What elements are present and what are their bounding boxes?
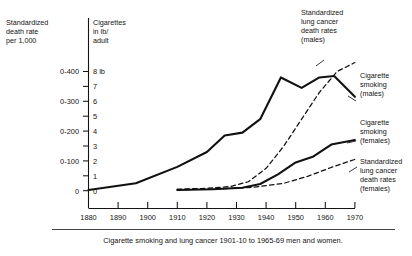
annotation-female-cancer-line-4: (females) xyxy=(360,184,390,193)
left-axis-tick-labels: 0-400 0-300 0-200 0-100 0 xyxy=(60,67,79,195)
leader-line-female-cancer xyxy=(349,167,357,172)
left-tick-label-0: 0 xyxy=(75,187,79,196)
x-tick-label-1930: 1930 xyxy=(228,213,244,222)
chart-caption: Cigarette smoking and lung cancer 1901-1… xyxy=(103,236,343,245)
right-tick-label-1: 1 xyxy=(93,172,97,181)
annotation-lung-cancer-females: Standardized lung cancer death rates (fe… xyxy=(360,157,402,193)
left-tick-label-300: 0-300 xyxy=(60,97,79,106)
x-tick-label-1940: 1940 xyxy=(258,213,274,222)
x-tick-label-1970: 1970 xyxy=(347,213,363,222)
annotation-cigarette-smoking-females: Cigarette smoking (females) xyxy=(360,118,390,145)
x-tick-label-1880: 1880 xyxy=(80,213,96,222)
annotation-male-cancer-line-4: (males) xyxy=(301,35,325,44)
right-axis-tick-labels: 8 lb 7 6 5 4 3 2 1 0 xyxy=(93,67,105,195)
leader-line-male-cancer xyxy=(316,60,324,66)
right-tick-label-2: 2 xyxy=(93,157,97,166)
right-tick-label-5: 5 xyxy=(93,112,97,121)
chart-figure: Standardized death rate per 1,000 Cigare… xyxy=(0,0,412,256)
x-tick-label-1900: 1900 xyxy=(139,213,155,222)
series-line-lung-cancer-males xyxy=(177,63,355,190)
x-axis-ticks xyxy=(89,202,355,208)
left-axis-header: Standardized death rate per 1,000 xyxy=(6,18,48,45)
x-tick-label-1920: 1920 xyxy=(199,213,215,222)
left-axis-header-line-2: death rate xyxy=(6,27,38,36)
right-axis-header-line-2: in lb/ xyxy=(93,27,108,36)
x-tick-label-1910: 1910 xyxy=(169,213,185,222)
annotation-female-smoking-line-3: (females) xyxy=(360,136,390,145)
annotation-female-cancer-line-3: death rates xyxy=(360,175,396,184)
series-line-cigarette-smoking-females xyxy=(177,140,355,190)
series-line-cigarette-smoking-males xyxy=(89,76,355,190)
right-axis-header-line-1: Cigarettes xyxy=(93,18,126,27)
left-axis-header-line-1: Standardized xyxy=(6,18,48,27)
left-tick-label-100: 0-100 xyxy=(60,157,79,166)
annotation-male-smoking-line-1: Cigarette xyxy=(360,71,389,80)
left-tick-label-200: 0-200 xyxy=(60,127,79,136)
annotation-female-cancer-line-1: Standardized xyxy=(360,157,402,166)
annotation-lung-cancer-males: Standardized lung cancer death rates (ma… xyxy=(301,8,343,44)
left-tick-label-400: 0-400 xyxy=(60,67,79,76)
x-tick-label-1950: 1950 xyxy=(287,213,303,222)
right-tick-label-7: 7 xyxy=(93,82,97,91)
annotation-male-smoking-line-2: smoking xyxy=(360,80,387,89)
right-tick-label-3: 3 xyxy=(93,142,97,151)
right-axis-header: Cigarettes in lb/ adult xyxy=(93,18,126,45)
annotation-male-smoking-line-3: (males) xyxy=(360,89,384,98)
x-axis-tick-labels: 1880 1890 1900 1910 1920 1930 1940 1950 … xyxy=(80,213,363,222)
annotation-male-cancer-line-3: death rates xyxy=(301,26,337,35)
annotation-male-cancer-line-1: Standardized xyxy=(301,8,343,17)
x-tick-label-1890: 1890 xyxy=(110,213,126,222)
annotation-cigarette-smoking-males: Cigarette smoking (males) xyxy=(360,71,389,98)
x-tick-label-1960: 1960 xyxy=(317,213,333,222)
annotation-female-smoking-line-2: smoking xyxy=(360,127,387,136)
annotation-male-cancer-line-2: lung cancer xyxy=(301,17,339,26)
right-tick-label-4: 4 xyxy=(93,127,97,136)
right-axis-header-line-3: adult xyxy=(93,36,109,45)
right-tick-label-8: 8 lb xyxy=(93,67,105,76)
annotation-female-cancer-line-2: lung cancer xyxy=(360,166,398,175)
right-tick-label-6: 6 xyxy=(93,97,97,106)
annotation-female-smoking-line-1: Cigarette xyxy=(360,118,389,127)
left-axis-header-line-3: per 1,000 xyxy=(6,36,36,45)
plot-series-group xyxy=(89,63,355,190)
series-line-lung-cancer-females xyxy=(177,159,355,189)
